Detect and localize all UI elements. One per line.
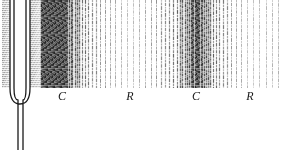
sound-wave-band (40, 0, 282, 88)
wave-diagram: C R C R (0, 0, 282, 150)
tuning-fork (0, 0, 56, 150)
tuning-fork-outline (10, 0, 30, 150)
wave-label-compression-2: C (189, 89, 203, 103)
wave-label-rarefaction-1: R (123, 89, 137, 103)
sound-wave-canvas (40, 0, 282, 88)
wave-label-compression-1: C (55, 89, 69, 103)
wave-label-rarefaction-2: R (243, 89, 257, 103)
